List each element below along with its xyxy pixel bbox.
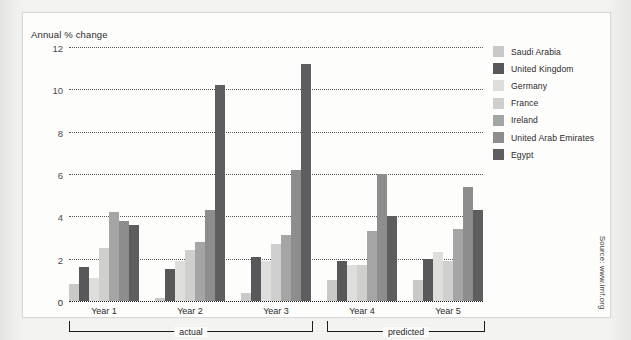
x-axis-group-label: Year 3 xyxy=(241,306,311,316)
bar xyxy=(241,293,251,301)
legend-label: Egypt xyxy=(511,150,533,160)
legend-item: Egypt xyxy=(493,146,611,163)
bar xyxy=(433,252,443,301)
bar-group: Year 5 xyxy=(413,47,483,301)
legend-label: United Kingdom xyxy=(511,64,574,74)
legend-item: United Arab Emirates xyxy=(493,129,611,146)
y-axis-tick-label: 4 xyxy=(58,212,63,223)
period-bracket-label: predicted xyxy=(383,327,429,337)
bar xyxy=(347,265,357,301)
legend-label: United Arab Emirates xyxy=(511,133,594,143)
bar xyxy=(291,170,301,301)
bar xyxy=(337,261,347,301)
legend-label: France xyxy=(511,98,538,108)
bar xyxy=(261,261,271,301)
y-axis-title: Annual % change xyxy=(31,29,108,40)
bar-group: Year 4 xyxy=(327,47,397,301)
bar xyxy=(413,280,423,301)
legend-item: Ireland xyxy=(493,112,611,129)
bar xyxy=(301,64,311,301)
bar xyxy=(99,248,109,301)
bar-groups: Year 1Year 2Year 3Year 4Year 5 xyxy=(69,47,483,301)
gridline: 0 xyxy=(69,301,483,302)
x-axis-group-label: Year 4 xyxy=(327,306,397,316)
period-bracket: actual xyxy=(69,321,313,332)
bar xyxy=(377,174,387,301)
bar xyxy=(89,278,99,301)
y-axis-tick-label: 2 xyxy=(58,254,63,265)
plot-area: 024681012 Year 1Year 2Year 3Year 4Year 5 xyxy=(69,47,483,301)
period-bracket-label: actual xyxy=(174,327,207,337)
legend-item: Germany xyxy=(493,77,611,94)
y-axis-tick-label: 10 xyxy=(52,85,63,96)
bar xyxy=(357,265,367,301)
bar xyxy=(165,269,175,301)
y-axis-tick-label: 8 xyxy=(58,127,63,138)
bar xyxy=(271,244,281,301)
legend-item: Saudi Arabia xyxy=(493,43,611,60)
x-axis-group-label: Year 5 xyxy=(413,306,483,316)
legend-swatch xyxy=(493,46,504,57)
chart-screenshot: Annual % change 024681012 Year 1Year 2Ye… xyxy=(0,0,631,340)
bar xyxy=(453,229,463,301)
legend-swatch xyxy=(493,80,504,91)
bar xyxy=(443,261,453,301)
x-axis-group-label: Year 1 xyxy=(69,306,139,316)
chart-panel: Annual % change 024681012 Year 1Year 2Ye… xyxy=(22,12,611,318)
bar xyxy=(423,259,433,301)
bar xyxy=(79,267,89,301)
legend-swatch xyxy=(493,149,504,160)
bar xyxy=(367,231,377,301)
y-axis-tick-label: 0 xyxy=(58,297,63,308)
bar xyxy=(195,242,205,301)
bar xyxy=(69,284,79,301)
period-bracket: predicted xyxy=(327,321,485,332)
bar xyxy=(155,298,165,301)
legend-swatch xyxy=(493,63,504,74)
y-axis-tick-label: 12 xyxy=(52,43,63,54)
bar-group: Year 2 xyxy=(155,47,225,301)
bar xyxy=(281,235,291,301)
legend-swatch xyxy=(493,98,504,109)
bar xyxy=(387,216,397,301)
bar xyxy=(205,210,215,301)
legend-item: United Kingdom xyxy=(493,60,611,77)
bar xyxy=(215,85,225,301)
bar xyxy=(129,225,139,301)
bar xyxy=(327,280,337,301)
legend-label: Ireland xyxy=(511,115,538,125)
bar xyxy=(175,261,185,301)
legend-label: Germany xyxy=(511,81,547,91)
bar-group: Year 1 xyxy=(69,47,139,301)
legend-swatch xyxy=(493,115,504,126)
bar xyxy=(473,210,483,301)
y-axis-tick-label: 6 xyxy=(58,170,63,181)
legend-swatch xyxy=(493,132,504,143)
source-attribution: Source: www.imf.org xyxy=(598,236,607,309)
bar-group: Year 3 xyxy=(241,47,311,301)
chart-legend: Saudi ArabiaUnited KingdomGermanyFranceI… xyxy=(493,43,611,163)
bar xyxy=(109,212,119,301)
bar xyxy=(251,257,261,301)
period-brackets: actualpredicted xyxy=(69,317,483,339)
bar xyxy=(119,221,129,301)
bar xyxy=(185,250,195,301)
x-axis-group-label: Year 2 xyxy=(155,306,225,316)
bar xyxy=(463,187,473,301)
legend-item: France xyxy=(493,95,611,112)
legend-label: Saudi Arabia xyxy=(511,47,561,57)
